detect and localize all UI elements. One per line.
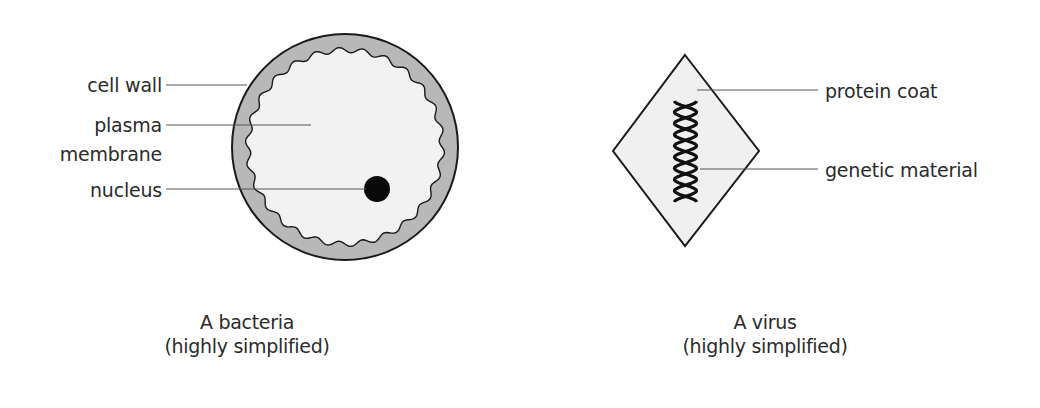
label-plasma-membrane-line2: membrane <box>60 143 162 165</box>
caption-bacteria-title: A bacteria <box>117 310 377 334</box>
label-cell-wall: cell wall <box>87 74 162 96</box>
virus-figure <box>613 55 759 246</box>
nucleus <box>364 176 390 202</box>
diagram-canvas: cell wall plasma membrane nucleus protei… <box>0 0 1040 408</box>
label-plasma-membrane-line1: plasma <box>94 114 162 136</box>
label-genetic-material: genetic material <box>825 159 978 181</box>
label-protein-coat: protein coat <box>825 80 937 102</box>
caption-virus: A virus (highly simplified) <box>635 310 895 358</box>
bacteria-figure <box>232 34 458 260</box>
caption-virus-title: A virus <box>635 310 895 334</box>
label-nucleus: nucleus <box>90 179 162 201</box>
caption-virus-subtitle: (highly simplified) <box>635 334 895 358</box>
caption-bacteria: A bacteria (highly simplified) <box>117 310 377 358</box>
caption-bacteria-subtitle: (highly simplified) <box>117 334 377 358</box>
